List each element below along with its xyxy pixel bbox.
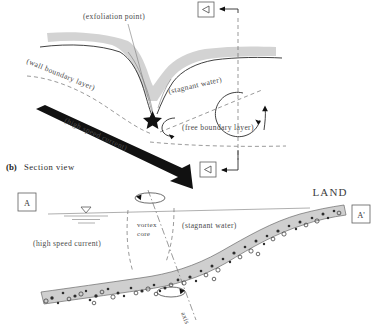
label-high-speed-current-section: (high speed current) bbox=[33, 239, 101, 248]
small-vortex-arrowhead bbox=[169, 134, 175, 139]
label-stagnant-water: (stagnant water) bbox=[167, 75, 222, 96]
section-marker-top-box bbox=[198, 2, 214, 17]
label-land: LAND bbox=[313, 186, 348, 198]
vortex-envelope-right bbox=[166, 208, 174, 262]
caption-marker: (b) bbox=[6, 162, 17, 172]
figure-caption: (b) Section view bbox=[6, 162, 75, 172]
star-icon bbox=[143, 111, 162, 129]
label-exfoliation-point: (exfoliation point) bbox=[83, 12, 145, 21]
label-vortex-core-line1: vortex bbox=[137, 221, 157, 229]
label-high-speed-current: (high speed current) bbox=[63, 116, 129, 153]
figure-root: (exfoliation point) (wall boundary layer… bbox=[0, 0, 383, 330]
caption-text: Section view bbox=[24, 162, 75, 172]
water-surface-icon bbox=[81, 207, 91, 213]
vortex-direction-arrowhead bbox=[262, 106, 268, 112]
label-axis: axis bbox=[179, 311, 191, 326]
label-free-boundary-layer: (free boundary layer) bbox=[182, 123, 254, 132]
section-marker-aprime-label: A' bbox=[357, 211, 365, 220]
sediment-bed-band bbox=[41, 205, 346, 304]
section-marker-top-arrowhead bbox=[219, 6, 225, 11]
section-marker-bottom-arrowhead bbox=[221, 167, 227, 172]
exfoliation-leader bbox=[128, 24, 152, 112]
vortex-envelope-left bbox=[127, 210, 133, 272]
diagram-svg: (exfoliation point) (wall boundary layer… bbox=[0, 0, 383, 330]
wall-gray-band bbox=[47, 32, 276, 101]
label-stagnant-water-section: (stagnant water) bbox=[182, 221, 237, 230]
label-vortex-core-line2: core bbox=[137, 230, 150, 238]
section-marker-bottom-box bbox=[200, 162, 216, 177]
section-view-panel: A A' bbox=[18, 186, 370, 325]
label-wall-boundary-layer: (wall boundary layer) bbox=[25, 57, 96, 93]
section-marker-a-label: A bbox=[24, 199, 30, 208]
plan-view-panel: (exfoliation point) (wall boundary layer… bbox=[25, 2, 286, 189]
vortex-direction-arrow bbox=[264, 108, 265, 130]
rotation-axis-line bbox=[148, 190, 196, 320]
section-marker-bottom-leader bbox=[222, 150, 238, 170]
datum-dash-line bbox=[150, 142, 286, 146]
